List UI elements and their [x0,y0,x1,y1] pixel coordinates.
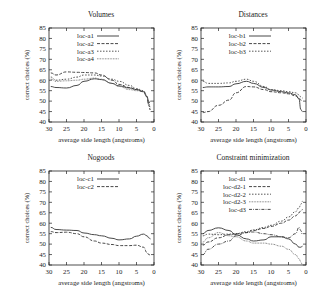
chart-title: Constraint minimization [216,153,289,162]
legend-label: loc-d2-1 [223,183,246,190]
x-tick-label: 15 [250,125,257,132]
legend-label: loc-a2 [77,40,95,47]
x-tick-label: 15 [250,268,257,275]
y-tick-label: 50 [39,97,46,104]
series-line-loc-b1 [203,81,303,111]
x-tick-label: 10 [268,268,275,275]
y-tick-label: 65 [39,66,46,73]
x-tick-label: 25 [63,125,70,132]
x-tick-label: 30 [46,268,53,275]
y-tick-label: 60 [39,77,46,84]
x-tick-label: 15 [98,268,105,275]
panel-volumes: Volumes40455055606570758085302520151050a… [23,10,156,144]
series-line-loc-d2-3 [203,233,303,265]
y-tick-label: 60 [39,220,46,227]
series-line-loc-c2 [51,232,151,255]
y-tick-label: 65 [191,66,198,73]
chart-title: Distances [238,10,267,19]
legend-label: loc-d2-2 [223,191,247,198]
legend-label: loc-b3 [229,48,247,55]
y-tick-label: 45 [191,251,198,258]
chart-title: Nogoods [87,153,114,162]
y-tick-label: 55 [191,230,198,237]
y-tick-label: 50 [191,240,198,247]
x-tick-label: 0 [152,268,156,275]
y-tick-label: 75 [191,45,198,52]
legend-label: loc-d1 [229,175,246,182]
x-axis-label: average side length (angstroms) [210,279,297,287]
x-tick-label: 30 [46,125,53,132]
y-tick-label: 75 [39,188,46,195]
x-tick-label: 20 [233,125,240,132]
y-tick-label: 70 [191,199,198,206]
x-tick-label: 20 [81,125,88,132]
x-tick-label: 15 [98,125,105,132]
y-tick-label: 80 [39,35,46,42]
y-tick-label: 80 [191,178,198,185]
x-tick-label: 25 [63,268,70,275]
x-tick-label: 30 [198,268,205,275]
x-tick-label: 30 [198,125,205,132]
y-tick-label: 85 [191,167,198,174]
series-line-loc-d2-2 [203,201,303,236]
y-axis-label: correct choices (%) [23,50,31,101]
figure: Volumes40455055606570758085302520151050a… [0,0,319,308]
y-axis-label: correct choices (%) [23,193,31,244]
y-tick-label: 55 [39,230,46,237]
y-tick-label: 65 [191,209,198,216]
y-axis-label: correct choices (%) [175,50,183,101]
plot-frame [201,171,306,265]
x-tick-label: 0 [304,268,308,275]
y-tick-label: 85 [39,24,46,31]
y-tick-label: 80 [191,35,198,42]
legend-label: loc-a1 [77,32,94,39]
legend-label: loc-d2-3 [223,198,247,205]
legend-label: loc-c1 [77,175,94,182]
x-tick-label: 5 [287,125,291,132]
series-line-loc-a3 [51,75,151,112]
plot-frame [49,171,154,265]
x-tick-label: 10 [268,125,275,132]
y-tick-label: 75 [191,188,198,195]
legend-label: loc-b1 [229,32,246,39]
x-axis-label: average side length (angstroms) [58,136,145,144]
x-axis-label: average side length (angstroms) [210,136,297,144]
x-tick-label: 25 [215,268,222,275]
y-tick-label: 65 [39,209,46,216]
x-axis-label: average side length (angstroms) [58,279,145,287]
y-tick-label: 60 [191,77,198,84]
series-line-loc-b3 [203,79,303,98]
legend-label: loc-d3 [229,206,247,213]
y-tick-label: 55 [191,87,198,94]
x-tick-label: 20 [233,268,240,275]
x-tick-label: 10 [116,125,123,132]
panel-distances: Distances4045505560657075808530252015105… [175,10,308,144]
plot-frame [201,28,306,122]
x-tick-label: 5 [135,125,139,132]
x-tick-label: 5 [287,268,291,275]
y-tick-label: 75 [39,45,46,52]
y-tick-label: 50 [39,240,46,247]
x-tick-label: 25 [215,125,222,132]
y-tick-label: 85 [191,24,198,31]
y-tick-label: 60 [191,220,198,227]
x-tick-label: 20 [81,268,88,275]
legend-label: loc-a3 [77,48,95,55]
y-tick-label: 50 [191,97,198,104]
y-axis-label: correct choices (%) [175,193,183,244]
series-line-loc-b2 [203,87,303,113]
y-tick-label: 45 [191,108,198,115]
y-tick-label: 45 [39,108,46,115]
series-line-loc-a4 [51,78,151,107]
chart-title: Volumes [88,10,114,19]
y-tick-label: 55 [39,87,46,94]
panel-constraint-minimization: Constraint minimization40455055606570758… [175,153,308,287]
y-tick-label: 80 [39,178,46,185]
y-tick-label: 70 [191,56,198,63]
y-tick-label: 85 [39,167,46,174]
legend-label: loc-a4 [77,55,95,62]
x-tick-label: 5 [135,268,139,275]
panel-nogoods: Nogoods40455055606570758085302520151050a… [23,153,156,287]
series-line-loc-c1 [51,227,151,240]
legend-label: loc-b2 [229,40,247,47]
